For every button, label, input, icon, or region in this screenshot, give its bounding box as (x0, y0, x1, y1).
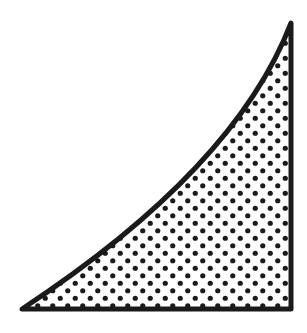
shaded-region-diagram (0, 0, 307, 333)
dotted-area-fill (22, 23, 291, 309)
